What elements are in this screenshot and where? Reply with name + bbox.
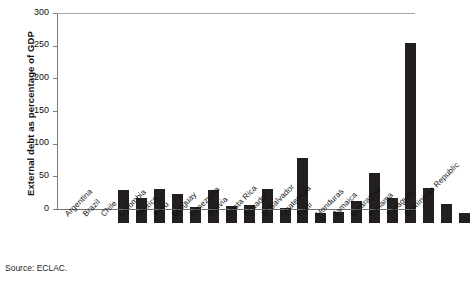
y-axis-tick-label: 300 [34, 7, 49, 17]
bar [459, 213, 470, 223]
y-axis-tick-label: 200 [34, 72, 49, 82]
bar [441, 204, 452, 223]
source-note: Source: ECLAC. [5, 263, 67, 273]
x-axis-labels: ArgentinaBrazilChileColombiaMexicoPeruUr… [57, 212, 415, 284]
bars-layer [115, 27, 473, 223]
y-axis-tick-label: 50 [39, 170, 49, 180]
y-axis-tick-label: 0 [44, 203, 49, 213]
y-axis-tick-label: 150 [34, 105, 49, 115]
y-axis-tick-label: 250 [34, 39, 49, 49]
y-axis-tick-label: 100 [34, 137, 49, 147]
plot-area [57, 13, 415, 210]
